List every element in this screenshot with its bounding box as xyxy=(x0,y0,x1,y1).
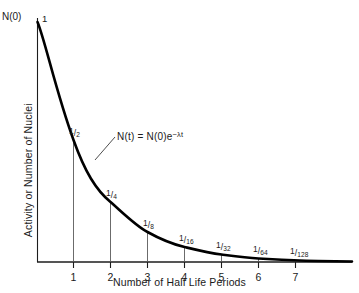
fraction-denominator: 2 xyxy=(76,131,80,138)
curve-label-sixteenth: 1/16 xyxy=(179,234,194,245)
y-axis-title: Activity or Number of Nuclei xyxy=(23,80,34,260)
fraction-numerator: 1 xyxy=(290,246,295,256)
fraction-numerator: 1 xyxy=(106,188,111,198)
curve-label-thirtysecond: 1/32 xyxy=(216,241,231,252)
fraction-numerator: 1 xyxy=(179,233,184,243)
fraction-denominator: 4 xyxy=(113,193,117,200)
origin-value-label: N(0) xyxy=(2,12,21,22)
curve-label-sixtyfourth: 1/64 xyxy=(253,245,268,256)
equation-exponent: −λt xyxy=(172,130,183,139)
decay-chart: N(0) 1 N(t) = N(0)e−λt 1/2 1/4 1/8 1/16 … xyxy=(0,0,359,293)
fraction-numerator: 1 xyxy=(143,218,148,228)
fraction-numerator: 1 xyxy=(253,244,258,254)
fraction-denominator: 16 xyxy=(186,238,194,245)
curve-label-half: 1/2 xyxy=(69,127,80,138)
fraction-numerator: 1 xyxy=(216,240,221,250)
fraction-denominator: 32 xyxy=(223,245,231,252)
fraction-denominator: 128 xyxy=(297,251,308,258)
fraction-denominator: 64 xyxy=(260,249,268,256)
fraction-numerator: 1 xyxy=(69,126,74,136)
fraction-denominator: 8 xyxy=(150,223,154,230)
curve-label-quarter: 1/4 xyxy=(106,189,117,200)
equation-body: N(t) = N(0)e xyxy=(117,131,172,142)
curve-label-onetwentyeighth: 1/128 xyxy=(290,247,309,258)
initial-value-label: 1 xyxy=(42,14,47,24)
decay-curve xyxy=(38,22,353,262)
curve-label-eighth: 1/8 xyxy=(143,219,154,230)
x-axis-title: Number of Half Life Periods xyxy=(0,277,359,288)
equation-leader-line xyxy=(95,137,115,160)
decay-equation: N(t) = N(0)e−λt xyxy=(117,131,183,142)
